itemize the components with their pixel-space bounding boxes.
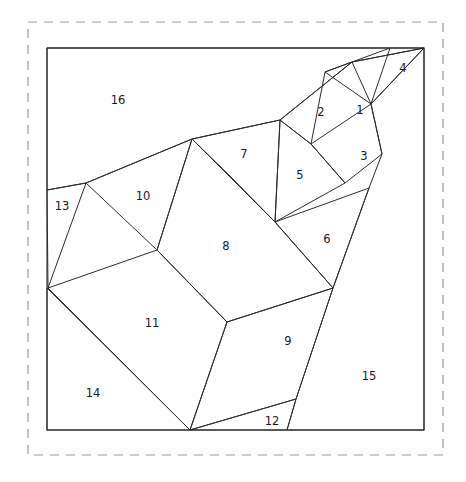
piece-label-11: 11 <box>145 316 160 330</box>
figure-root: 12345678910111213141516 <box>0 0 466 482</box>
piece-label-10: 10 <box>136 189 151 203</box>
piece-label-5: 5 <box>296 168 303 182</box>
piece-label-3: 3 <box>360 149 367 163</box>
piece-label-1: 1 <box>356 103 363 117</box>
piece-label-12: 12 <box>265 414 280 428</box>
piece-label-6: 6 <box>323 232 330 246</box>
squared-square-diagram: 12345678910111213141516 <box>0 0 466 482</box>
piece-label-14: 14 <box>86 386 101 400</box>
piece-label-4: 4 <box>399 61 406 75</box>
piece-label-16: 16 <box>111 93 126 107</box>
piece-label-13: 13 <box>55 199 70 213</box>
piece-label-2: 2 <box>317 105 324 119</box>
piece-label-15: 15 <box>362 369 377 383</box>
piece-label-8: 8 <box>222 239 229 253</box>
piece-label-9: 9 <box>284 334 291 348</box>
piece-label-7: 7 <box>240 147 247 161</box>
